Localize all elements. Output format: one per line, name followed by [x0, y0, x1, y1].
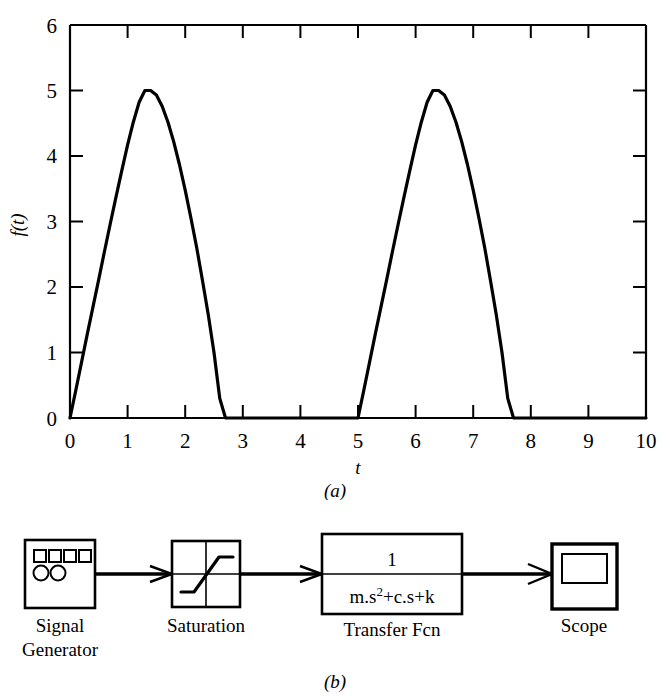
x-tick-label-0: 0 — [65, 429, 76, 453]
y-tick-label-0: 0 — [47, 407, 58, 431]
x-tick-label-10: 10 — [636, 429, 657, 453]
x-tick-label-2: 2 — [180, 429, 191, 453]
figure-page: 0 1 2 3 4 5 6 0 1 2 3 4 5 6 7 8 9 10 — [0, 0, 670, 696]
x-tick-label-5: 5 — [353, 429, 364, 453]
connector-siggen-to-saturation — [95, 566, 172, 582]
denominator-rest: +c.s+k — [383, 586, 435, 607]
block-transfer-fcn[interactable]: 1 m.s2+c.s+k Transfer Fcn — [322, 534, 462, 640]
block-signal-generator[interactable]: Signal Generator — [22, 540, 99, 660]
transfer-fcn-denominator: m.s2+c.s+k — [350, 584, 435, 607]
signal-generator-label-line2: Generator — [22, 639, 99, 660]
plot-svg: 0 1 2 3 4 5 6 0 1 2 3 4 5 6 7 8 9 10 — [0, 0, 670, 500]
scope-icon — [562, 554, 607, 583]
y-tick-label-1: 1 — [47, 341, 58, 365]
plot-panel-a: 0 1 2 3 4 5 6 0 1 2 3 4 5 6 7 8 9 10 — [0, 0, 670, 500]
scope-label-line1: Scope — [561, 615, 607, 636]
x-tick-label-4: 4 — [295, 429, 306, 453]
panel-b-caption: (b) — [324, 671, 346, 693]
denominator-base: m.s — [350, 586, 377, 607]
y-axis-label: f(t) — [7, 213, 29, 236]
connector-transferfcn-to-scope — [462, 564, 552, 584]
y-tick-label-5: 5 — [47, 79, 58, 103]
diagram-svg: Signal Generator Saturation — [0, 500, 670, 696]
x-axis-label: t — [355, 457, 361, 478]
block-saturation[interactable]: Saturation — [167, 541, 246, 636]
signal-generator-label-line1: Signal — [36, 615, 85, 636]
plot-frame — [70, 25, 646, 418]
data-series-line — [70, 91, 646, 419]
x-tick-label-1: 1 — [122, 429, 133, 453]
x-tick-marks-top — [128, 25, 589, 38]
x-tick-label-8: 8 — [526, 429, 537, 453]
y-tick-label-4: 4 — [47, 144, 58, 168]
transfer-fcn-numerator: 1 — [387, 549, 397, 570]
y-tick-label-6: 6 — [47, 14, 58, 38]
x-tick-label-6: 6 — [410, 429, 421, 453]
block-scope[interactable]: Scope — [552, 544, 617, 636]
transfer-fcn-label-line1: Transfer Fcn — [344, 619, 441, 640]
y-tick-labels: 0 1 2 3 4 5 6 — [47, 14, 58, 431]
y-tick-label-2: 2 — [47, 275, 58, 299]
saturation-label-line1: Saturation — [167, 615, 246, 636]
y-tick-marks-right — [633, 91, 646, 353]
x-tick-labels: 0 1 2 3 4 5 6 7 8 9 10 — [65, 429, 657, 453]
y-tick-label-3: 3 — [47, 210, 58, 234]
x-tick-label-7: 7 — [468, 429, 479, 453]
panel-a-caption: (a) — [324, 480, 346, 500]
x-tick-label-3: 3 — [238, 429, 249, 453]
connector-saturation-to-transferfcn — [240, 566, 322, 582]
x-tick-label-9: 9 — [583, 429, 594, 453]
y-tick-marks — [70, 91, 83, 353]
diagram-panel-b: Signal Generator Saturation — [0, 500, 670, 696]
